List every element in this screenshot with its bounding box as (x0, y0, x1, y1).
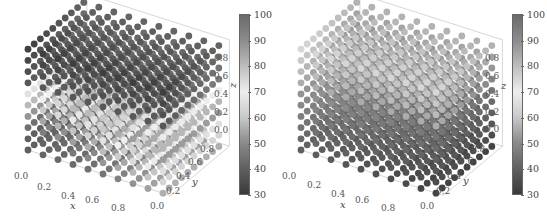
data-point (46, 45, 53, 52)
data-point (70, 161, 77, 168)
data-point (395, 34, 402, 41)
data-point (376, 49, 383, 56)
data-point (433, 134, 440, 141)
data-point (203, 120, 210, 127)
data-point (95, 4, 102, 11)
data-point (112, 59, 119, 66)
data-point (76, 111, 83, 118)
data-point (403, 147, 410, 154)
z-tick: 0.0 (214, 125, 228, 135)
data-point (428, 23, 435, 30)
data-point (403, 91, 410, 98)
data-point (184, 135, 191, 142)
data-point (55, 100, 62, 107)
data-point (388, 131, 395, 138)
y-tick: 0.8 (471, 144, 485, 154)
data-point (184, 91, 191, 98)
data-point (394, 170, 401, 177)
data-point (355, 50, 362, 57)
data-point (349, 111, 356, 118)
data-point (115, 175, 122, 182)
data-point (319, 90, 326, 97)
data-point (25, 46, 32, 53)
data-point (424, 135, 431, 142)
data-point (373, 137, 380, 144)
data-point (85, 132, 92, 139)
data-point (313, 51, 320, 58)
data-point (383, 9, 390, 16)
y-tick: 0.6 (188, 157, 202, 167)
data-point (434, 53, 441, 60)
y-tick: 0.0 (150, 201, 164, 211)
data-point (451, 152, 458, 159)
x-tick: 0.0 (14, 171, 28, 181)
data-point (178, 141, 185, 148)
data-point (61, 95, 68, 102)
data-point (424, 79, 431, 86)
data-point (464, 119, 471, 126)
data-point (40, 107, 47, 114)
data-point (379, 121, 386, 128)
data-point (101, 34, 108, 41)
data-point (304, 74, 311, 81)
data-point (88, 45, 95, 52)
data-point (73, 40, 80, 47)
data-point (410, 39, 417, 46)
x-tick: 0.8 (381, 203, 395, 213)
data-point (457, 102, 464, 109)
data-point (55, 67, 62, 74)
data-point (61, 61, 68, 68)
data-point (304, 141, 311, 148)
data-point (418, 151, 425, 158)
data-point (334, 151, 341, 158)
data-point (397, 49, 404, 56)
data-point (340, 45, 347, 52)
colorbar-tick: 90 (527, 35, 539, 46)
data-point (439, 140, 446, 147)
data-point (110, 9, 117, 16)
data-point (394, 103, 401, 110)
data-point (85, 110, 92, 117)
data-point (191, 63, 198, 70)
data-point (74, 4, 81, 11)
data-point (185, 33, 192, 40)
data-point (343, 161, 350, 168)
data-point (418, 163, 425, 170)
data-point (388, 97, 395, 104)
data-point (136, 74, 143, 81)
data-point (145, 174, 152, 181)
data-point (464, 108, 471, 115)
colorbar-tick: 50 (254, 138, 266, 149)
data-point (319, 146, 326, 153)
data-point (424, 146, 431, 153)
data-point (122, 34, 129, 41)
data-point (464, 85, 471, 92)
data-point (455, 53, 462, 60)
data-point (482, 137, 489, 144)
data-point (334, 50, 341, 57)
data-point (457, 147, 464, 154)
data-point (172, 123, 179, 130)
data-point (347, 4, 354, 11)
data-point (203, 64, 210, 71)
data-point (70, 116, 77, 123)
data-point (197, 136, 204, 143)
data-point (313, 73, 320, 80)
data-point (365, 24, 372, 31)
data-point (452, 38, 459, 45)
colorbar-tick: 60 (254, 112, 266, 123)
data-point (160, 100, 167, 107)
data-point (343, 60, 350, 67)
data-point (106, 121, 113, 128)
y-tick: 0.4 (176, 171, 190, 181)
data-point (349, 100, 356, 107)
data-point (358, 155, 365, 162)
data-point (433, 145, 440, 152)
data-point (103, 49, 110, 56)
data-point (106, 154, 113, 161)
data-point (82, 50, 89, 57)
data-point (349, 89, 356, 96)
data-point (76, 145, 83, 152)
data-point (40, 84, 47, 91)
data-point (409, 74, 416, 81)
